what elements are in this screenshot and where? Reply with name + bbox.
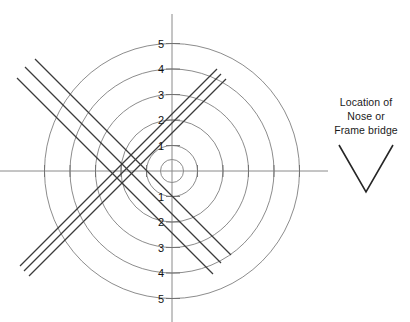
bridge-marker-polyline: [339, 145, 393, 192]
axes-group: [0, 14, 328, 322]
descending-line-3: [35, 59, 231, 255]
legend-line-2: Nose or: [322, 109, 410, 123]
y-label-up-1: 1: [158, 140, 164, 152]
ascending-line-2: [24, 74, 221, 271]
ascending-line-1: [20, 69, 217, 266]
y-label-up-4: 4: [158, 63, 164, 75]
y-label-down-5: 5: [158, 293, 164, 305]
legend-line-1: Location of: [322, 95, 410, 109]
descending-line-group: [17, 59, 231, 274]
y-label-down-3: 3: [158, 242, 164, 254]
y-label-up-5: 5: [158, 38, 164, 50]
ascending-line-group: [20, 69, 226, 276]
legend-line-3: Frame bridge: [322, 123, 410, 137]
y-label-up-3: 3: [158, 89, 164, 101]
y-label-down-4: 4: [158, 267, 164, 279]
figure-canvas: 5 4 3 2 1 1 2 3 4 5 Location of Nose or …: [0, 0, 410, 322]
y-label-down-1: 1: [158, 191, 164, 203]
y-label-up-2: 2: [158, 114, 164, 126]
polar-chart-svg: 5 4 3 2 1 1 2 3 4 5: [0, 0, 410, 322]
descending-line-2: [25, 67, 221, 263]
v-shaped-bridge-marker: [339, 145, 393, 192]
y-label-down-2: 2: [158, 216, 164, 228]
descending-line-1: [17, 78, 213, 274]
nose-bridge-legend: Location of Nose or Frame bridge: [322, 95, 410, 137]
